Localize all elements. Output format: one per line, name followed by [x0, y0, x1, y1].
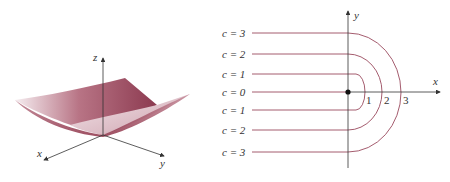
level-label: c = 0: [222, 86, 246, 98]
figure: z x y y x 1 2 3 c = 3 c = 2 c = 1 c = 0 …: [0, 0, 450, 182]
z-axis-label: z: [92, 51, 98, 63]
level-label: c = 2: [222, 124, 246, 136]
surface-plot: z x y: [15, 51, 190, 169]
x-axis-3d: [44, 135, 103, 160]
origin-point: [345, 89, 350, 94]
tick-3: 3: [403, 94, 409, 106]
contour-c3: [252, 33, 401, 152]
level-label: c = 3: [222, 27, 246, 39]
y-axis-3d: [103, 135, 164, 156]
tick-1: 1: [366, 94, 372, 106]
tick-2: 2: [384, 94, 390, 106]
x-axis-label: x: [432, 75, 438, 87]
level-label: c = 3: [222, 146, 246, 158]
x-axis-label-3d: x: [36, 147, 42, 159]
level-label: c = 2: [222, 48, 246, 60]
level-label: c = 1: [222, 68, 245, 80]
y-axis-label-3d: y: [159, 157, 165, 169]
level-label: c = 1: [222, 104, 245, 116]
y-axis-label: y: [353, 9, 359, 21]
contour-plot: y x 1 2 3 c = 3 c = 2 c = 1 c = 0 c = 1 …: [222, 9, 440, 168]
